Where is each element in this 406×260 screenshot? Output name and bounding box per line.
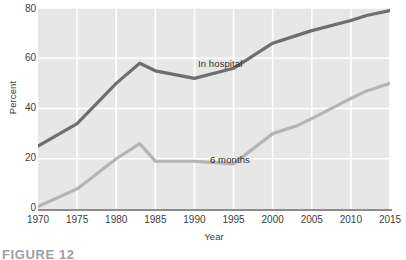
x-tick-label-2010: 2010 [329, 214, 373, 226]
x-tick-label-1995: 1995 [212, 214, 256, 226]
figure-caption: FIGURE 12 [2, 247, 75, 260]
x-tick-label-2000: 2000 [251, 214, 295, 226]
x-axis-tick-labels: 1970197519801985199019952000200520102015 [38, 214, 390, 228]
series-line-1 [38, 83, 390, 206]
plot-area: In hospital 6 months [38, 8, 390, 209]
y-tick-label-80: 80 [10, 4, 36, 14]
x-tick-label-1990: 1990 [172, 214, 216, 226]
y-tick-label-40: 40 [10, 103, 36, 113]
x-tick-label-2005: 2005 [290, 214, 334, 226]
x-tick-label-1970: 1970 [16, 214, 60, 226]
plot-svg [38, 8, 390, 209]
series-annotation-in-hospital: In hospital [198, 58, 242, 69]
y-tick-label-60: 60 [10, 53, 36, 63]
x-axis-line [38, 209, 392, 211]
series-annotation-6-months: 6 months [210, 154, 250, 165]
y-tick-label-20: 20 [10, 153, 36, 163]
series-line-0 [38, 11, 390, 147]
x-tick-label-1975: 1975 [55, 214, 99, 226]
x-tick-label-1985: 1985 [133, 214, 177, 226]
x-tick-label-2015: 2015 [368, 214, 406, 226]
y-tick-label-0: 0 [10, 203, 36, 213]
x-tick-label-1980: 1980 [94, 214, 138, 226]
x-axis-title: Year [38, 231, 390, 242]
